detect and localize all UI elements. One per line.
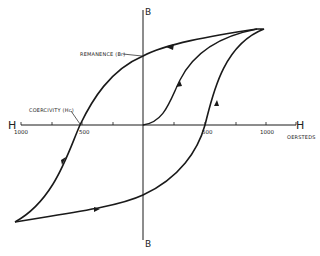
direction-arrows <box>61 44 219 212</box>
units-label: OERSTEDS <box>287 134 316 140</box>
tick-label-right-500: 500 <box>202 129 213 135</box>
coercivity-label: COERCIVITY (Hc) <box>29 107 74 113</box>
remanence-label: REMANENCE (Br) <box>80 51 125 57</box>
arrow-upper-left-icon <box>166 44 174 50</box>
initial-magnetization-curve <box>143 29 257 125</box>
tick-label-left-1000: 1000 <box>14 129 28 135</box>
h-axis-right-label: H <box>296 119 304 132</box>
remanence-leader <box>123 54 142 56</box>
arrow-up-right-icon <box>214 100 219 106</box>
tick-label-left-500: 500 <box>79 129 90 135</box>
b-axis-bottom-label: B <box>145 239 151 249</box>
b-axis-top-label: B <box>145 7 151 17</box>
tick-label-right-1000: 1000 <box>260 129 274 135</box>
hysteresis-diagram: H H B B OERSTEDS 1000 500 500 1000 REMAN… <box>0 0 320 256</box>
